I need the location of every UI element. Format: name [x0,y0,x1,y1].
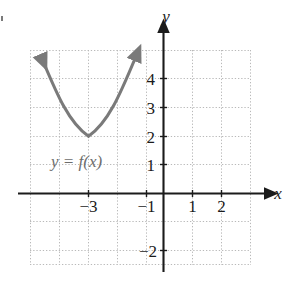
x-tick-label-neg3: −3 [79,197,97,216]
x-tick-label-2: 2 [217,197,226,216]
y-tick-label-2: 2 [147,128,156,147]
y-axis-label: y [160,7,170,26]
graph-figure: −3 −1 1 2 4 3 2 1 −2 y x y = f(x) [0,0,295,282]
y-tick-label-1: 1 [147,156,156,175]
y-tick-label-neg2: −2 [139,242,157,261]
coordinate-plane-svg: −3 −1 1 2 4 3 2 1 −2 y x y = f(x) [0,0,295,282]
function-equation-label: y = f(x) [49,152,102,171]
x-axis-label: x [273,184,282,203]
x-tick-label-1: 1 [188,197,197,216]
y-tick-label-4: 4 [147,70,156,89]
page-edge-mark [1,16,3,21]
x-tick-label-neg1: −1 [137,197,155,216]
y-tick-label-3: 3 [147,99,156,118]
